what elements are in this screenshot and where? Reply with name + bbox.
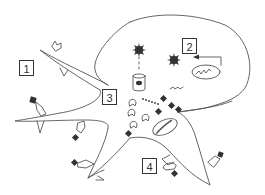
ligand-diamond — [71, 159, 78, 166]
oval-organelle-lower — [150, 115, 179, 139]
ligand-diamond — [160, 95, 167, 102]
receptor-left-top — [36, 102, 46, 116]
step-label-4: 4 — [142, 158, 157, 174]
receptor-mid-left — [77, 121, 85, 133]
cylinder-content — [136, 81, 142, 85]
ligand-diamond — [155, 108, 162, 115]
spiky-particle-right — [167, 53, 181, 67]
diagram-canvas — [0, 0, 265, 195]
lower-right-process — [130, 112, 210, 185]
dotted-line-particles — [142, 98, 159, 105]
receptor-lower-left — [78, 160, 94, 168]
open-receptor — [128, 109, 135, 116]
spiky-particle-top — [132, 43, 146, 57]
left-process — [15, 90, 108, 128]
step-label-2: 2 — [182, 38, 197, 54]
ligand-diamond — [125, 130, 132, 137]
organelle-with-squiggle — [192, 65, 220, 79]
open-receptor — [129, 99, 136, 106]
open-receptor — [130, 121, 137, 128]
lower-left-process — [88, 128, 130, 178]
step-label-3: 3 — [102, 89, 117, 105]
receptor-upper-left-top — [52, 41, 61, 51]
ligand-diamond — [72, 134, 79, 141]
receptor-left-bottom — [37, 121, 44, 133]
cell-diagram: 1 2 3 4 — [0, 0, 265, 195]
ligand-diamond — [171, 170, 178, 177]
small-squiggle — [170, 87, 183, 89]
open-receptor — [142, 114, 149, 121]
receptor-lower-left-tip — [96, 176, 104, 180]
signal-arrow-line — [196, 57, 221, 65]
signal-arrowhead-icon — [193, 55, 199, 60]
ligand-diamond — [168, 102, 175, 109]
ligand-diamond — [29, 96, 36, 103]
receptor-lower-right-c — [208, 156, 220, 167]
ligand-diamond — [217, 151, 223, 157]
step-label-1: 1 — [19, 60, 34, 76]
organelle-squiggle — [196, 69, 211, 74]
